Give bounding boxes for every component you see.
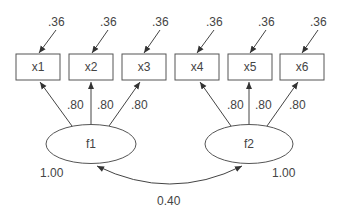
error-label-x4: .36 <box>206 15 223 29</box>
error-arrow-x2 <box>92 30 108 53</box>
observed-label-x4: x4 <box>191 60 204 74</box>
latent-factors: f1 f2 <box>46 125 293 164</box>
covariance-arrow-f1-f2 <box>97 166 242 184</box>
loading-labels: .80 .80 .80 .80 .80 .80 <box>67 98 306 112</box>
error-arrow-x5 <box>250 30 266 53</box>
loading-label-f1-x3: .80 <box>131 98 148 112</box>
error-arrow-x3 <box>144 30 160 53</box>
error-arrow-x6 <box>302 30 318 53</box>
error-variance-labels: .36 .36 .36 .36 .36 .36 <box>48 15 327 29</box>
loading-label-f2-x4: .80 <box>227 98 244 112</box>
error-arrow-x4 <box>197 30 214 53</box>
error-label-x2: .36 <box>100 15 117 29</box>
observed-label-x5: x5 <box>244 60 257 74</box>
latent-label-f1: f1 <box>86 137 96 151</box>
error-arrows <box>39 30 318 53</box>
loading-label-f2-x6: .80 <box>289 98 306 112</box>
observed-label-x1: x1 <box>32 60 45 74</box>
observed-label-x6: x6 <box>296 60 309 74</box>
loading-label-f1-x1: .80 <box>67 98 84 112</box>
error-label-x6: .36 <box>310 15 327 29</box>
cfa-path-diagram: .36 .36 .36 .36 .36 .36 x1 x2 x3 x4 x5 x… <box>0 0 339 212</box>
variance-label-f1: 1.00 <box>40 166 64 180</box>
covariance-label: 0.40 <box>157 194 181 208</box>
loading-label-f2-x5: .80 <box>255 98 272 112</box>
loading-label-f1-x2: .80 <box>97 98 114 112</box>
error-label-x5: .36 <box>258 15 275 29</box>
variance-label-f2: 1.00 <box>272 166 296 180</box>
observed-label-x2: x2 <box>85 60 98 74</box>
observed-variables: x1 x2 x3 x4 x5 x6 <box>16 54 324 80</box>
latent-label-f2: f2 <box>244 137 254 151</box>
error-label-x3: .36 <box>152 15 169 29</box>
error-label-x1: .36 <box>48 15 65 29</box>
error-arrow-x1 <box>39 30 56 53</box>
observed-label-x3: x3 <box>138 60 151 74</box>
